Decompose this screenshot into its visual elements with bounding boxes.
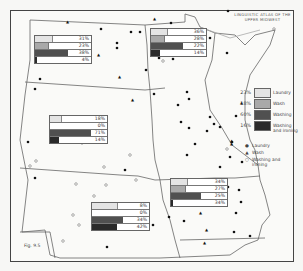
svg-text:▲: ▲ (230, 141, 234, 146)
chart-nebraska: 8% 0% 34% 42% (91, 202, 150, 231)
symbol-item-washing-ironing: ○Washing and ironing (244, 157, 303, 169)
bar-row-laundry: 18% (50, 116, 107, 123)
bar-value: 23% (79, 43, 89, 49)
bar-row-laundry: 34% (171, 179, 227, 186)
figure-label: Fig. 9.5 (24, 243, 40, 248)
bar-washing-ironing (171, 200, 173, 206)
bar-row-washing: 25% (171, 193, 227, 200)
bar-value: 14% (95, 137, 105, 143)
bar-washing (151, 43, 183, 49)
symbol-label: Wash (252, 150, 264, 155)
bar-value: 25% (215, 193, 225, 199)
bar-row-washing: 22% (151, 43, 206, 50)
bar-row-wash: 28% (151, 36, 206, 43)
symbol-item-wash: ▲Wash (244, 150, 303, 157)
bar-value: 34% (215, 179, 225, 185)
bar-washing (50, 130, 91, 136)
bar-value: 4% (82, 57, 89, 63)
symbol-item-laundry: ●Laundry (244, 143, 303, 150)
bar-laundry (92, 203, 118, 209)
bar-row-washing-ironing: 42% (92, 224, 149, 230)
symbol-label: Washing and ironing (252, 157, 292, 167)
bar-row-washing: 38% (35, 50, 91, 57)
svg-text:▲: ▲ (131, 97, 135, 102)
bar-laundry (171, 179, 188, 185)
bar-value: 38% (79, 50, 89, 56)
legend-pct: 60% (237, 112, 251, 117)
bar-value: 8% (140, 203, 147, 209)
chart-north-dakota: 31% 23% 38% 4% (34, 35, 92, 64)
bar-value: 22% (194, 43, 204, 49)
bar-value: 42% (137, 224, 147, 230)
svg-text:▲: ▲ (203, 240, 207, 245)
bar-row-washing-ironing: 14% (50, 137, 107, 143)
chart-minnesota: 36% 28% 22% 14% (150, 28, 207, 57)
bar-laundry (50, 116, 62, 122)
bar-washing-ironing (35, 57, 37, 63)
legend-item-laundry: 23%Laundry (237, 88, 303, 99)
bar-value: 36% (194, 29, 204, 35)
legend-label: Washing (273, 112, 292, 117)
bar-value: 34% (137, 217, 147, 223)
legend-swatch (254, 99, 271, 109)
legend-label: Laundry (273, 90, 291, 95)
bar-row-washing: 71% (50, 130, 107, 137)
legend-label: Washing and ironing (273, 123, 299, 133)
bar-washing (92, 217, 123, 223)
bar-row-wash: 0% (50, 123, 107, 130)
triangle-icon: ▲ (244, 150, 250, 155)
bar-laundry (35, 36, 53, 42)
legend-pct: 23% (237, 90, 251, 95)
svg-text:▲: ▲ (118, 74, 122, 79)
chart-iowa: 34% 27% 25% 34% (170, 178, 228, 207)
bar-washing (35, 50, 68, 56)
bar-value: 28% (194, 36, 204, 42)
open-circle-icon: ○ (244, 157, 250, 162)
legend-label: Wash (273, 101, 285, 106)
bar-row-laundry: 8% (92, 203, 149, 210)
chart-south-dakota: 18% 0% 71% 14% (49, 115, 108, 144)
title-line-2: Upper Midwest (225, 17, 300, 22)
bar-row-wash: 23% (35, 43, 91, 50)
bar-row-washing: 34% (92, 217, 149, 224)
legend-pct: 16% (237, 123, 251, 128)
svg-text:▲: ▲ (153, 16, 157, 21)
bar-washing-ironing (92, 224, 117, 230)
legend-swatch (254, 88, 271, 98)
bar-wash (171, 186, 186, 192)
svg-text:▲: ▲ (199, 210, 203, 215)
bar-value: 34% (215, 200, 225, 206)
bar-row-wash: 27% (171, 186, 227, 193)
filled-circle-icon: ● (244, 143, 250, 148)
bar-washing-ironing (151, 50, 160, 56)
bar-wash (35, 43, 49, 49)
bar-row-washing-ironing: 4% (35, 57, 91, 63)
bar-washing (171, 193, 201, 199)
symbol-label: Laundry (252, 143, 270, 148)
bar-row-washing-ironing: 34% (171, 200, 227, 206)
bar-value: 0% (140, 210, 147, 216)
bar-row-laundry: 31% (35, 36, 91, 43)
legend-pct: 18% (237, 101, 251, 106)
symbol-legend: ●Laundry ▲Wash ○Washing and ironing (244, 143, 303, 169)
bar-value: 31% (79, 36, 89, 42)
legend-swatch (254, 121, 271, 131)
bar-row-washing-ironing: 14% (151, 50, 206, 56)
map-legend: 23%Laundry 18%Wash 60%Washing 16%Washing… (237, 88, 303, 132)
bar-wash (151, 36, 165, 42)
svg-text:▲: ▲ (97, 52, 101, 57)
legend-item-washing: 60%Washing (237, 110, 303, 121)
svg-text:▲: ▲ (205, 227, 209, 232)
legend-item-wash: 18%Wash (237, 99, 303, 110)
bar-value: 71% (95, 130, 105, 136)
bar-row-laundry: 36% (151, 29, 206, 36)
legend-swatch (254, 110, 271, 120)
bar-row-wash: 0% (92, 210, 149, 217)
bar-washing-ironing (50, 137, 59, 143)
map-title: Linguistic Atlas of the Upper Midwest (225, 12, 300, 22)
bar-value: 0% (98, 123, 105, 129)
bar-value: 18% (95, 116, 105, 122)
bar-laundry (151, 29, 168, 35)
legend-item-washing-ironing: 16%Washing and ironing (237, 121, 303, 132)
bar-value: 27% (215, 186, 225, 192)
